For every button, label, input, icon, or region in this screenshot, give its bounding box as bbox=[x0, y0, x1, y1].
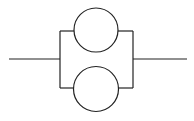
parallel-circuit-diagram bbox=[0, 0, 194, 121]
bottom-element-circle bbox=[74, 67, 119, 112]
top-element-circle bbox=[74, 8, 118, 52]
